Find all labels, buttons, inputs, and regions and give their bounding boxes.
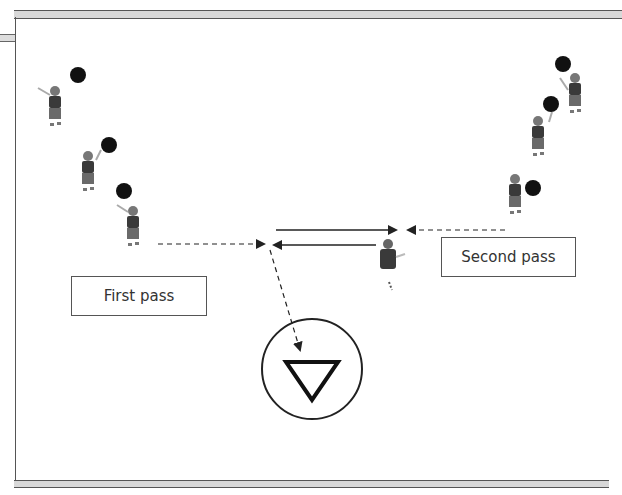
player-left-2 bbox=[82, 150, 101, 191]
second-pass-label: Second pass bbox=[441, 237, 576, 277]
ball-icon bbox=[555, 56, 571, 72]
player-right-1 bbox=[560, 73, 581, 113]
ball-icon bbox=[116, 183, 132, 199]
lacrosse-stick-icon bbox=[38, 88, 50, 95]
goal-icon bbox=[262, 319, 362, 419]
player-left-3 bbox=[117, 205, 139, 246]
player-left-1 bbox=[38, 86, 61, 126]
player-middle bbox=[380, 239, 405, 290]
player-right-2 bbox=[532, 112, 552, 156]
first-pass-label: First pass bbox=[71, 276, 207, 316]
balls bbox=[70, 56, 571, 199]
ball-icon bbox=[70, 67, 86, 83]
ball-icon bbox=[543, 96, 559, 112]
ball-icon bbox=[101, 137, 117, 153]
ball-icon bbox=[525, 180, 541, 196]
player-right-3 bbox=[509, 174, 521, 214]
